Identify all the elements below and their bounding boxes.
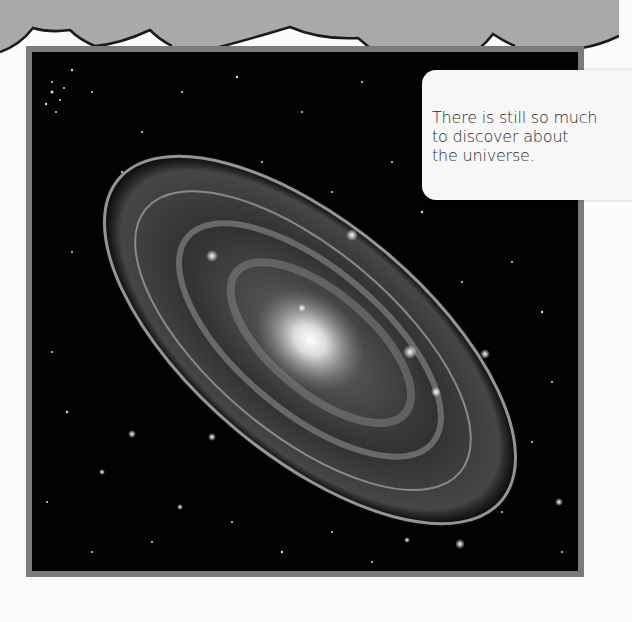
caption-text: There is still so much to discover about… xyxy=(432,108,632,165)
caption-callout: There is still so much to discover about… xyxy=(422,70,632,200)
